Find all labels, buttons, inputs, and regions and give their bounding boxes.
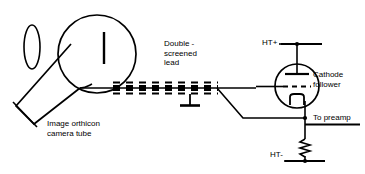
cathode-resistor-group: [285, 139, 325, 163]
schematic-canvas: [0, 0, 365, 174]
junction-dot-ht-plus: [295, 42, 299, 46]
schematic-diagram: Double - screened lead Image orthicon ca…: [0, 0, 365, 174]
label-image-orthicon-camera-tube: Image orthicon camera tube: [47, 119, 100, 138]
ht-plus-rail-group: [281, 42, 322, 46]
label-ht-plus: HT+: [262, 38, 277, 48]
cathode-return-wiring: [217, 88, 305, 118]
label-to-preamp: To preamp: [313, 113, 351, 123]
lead-to-cathode-wire: [217, 88, 305, 118]
camera-tube-bulb: [58, 15, 136, 93]
cathode-resistor: [300, 139, 310, 157]
label-cathode-follower: Cathode follower: [313, 70, 343, 89]
label-double-screened-lead: Double - screened lead: [164, 39, 197, 68]
label-ht-minus: HT-: [270, 150, 283, 160]
vacuum-tube-triode-group: [256, 44, 319, 118]
lens-ellipse: [24, 25, 40, 69]
image-orthicon-camera-tube-group: [13, 15, 136, 127]
triode-cathode: [290, 94, 304, 105]
camera-tube-neck: [16, 44, 80, 124]
camera-tube-base-cap: [13, 102, 37, 127]
